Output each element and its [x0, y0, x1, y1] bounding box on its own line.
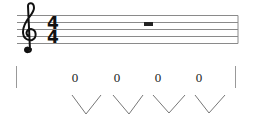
- strum-marks: [72, 95, 225, 114]
- time-signature-denominator: 4: [47, 27, 59, 47]
- score-canvas: 4 4 0 0 0 0: [0, 0, 254, 125]
- treble-clef-icon: [23, 3, 36, 52]
- time-signature: 4 4: [47, 13, 59, 47]
- down-strum-icon: [195, 95, 225, 113]
- tab-value: 0: [155, 70, 162, 85]
- tab-value: 0: [196, 70, 203, 85]
- down-strum-icon: [113, 95, 143, 114]
- tab-value: 0: [72, 70, 79, 85]
- whole-rest-icon: [144, 22, 153, 26]
- down-strum-icon: [153, 95, 185, 113]
- tab-value: 0: [114, 70, 121, 85]
- down-strum-icon: [72, 95, 101, 114]
